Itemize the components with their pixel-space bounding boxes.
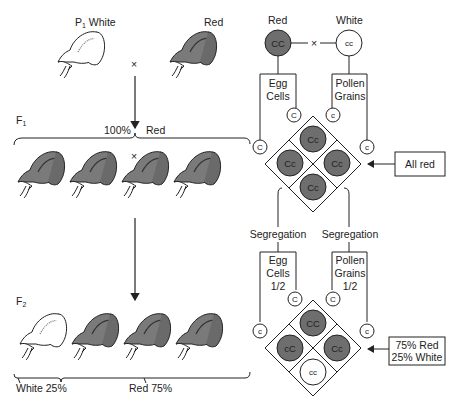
svg-text:Grains: Grains [335,267,366,279]
f1-flower-1 [18,152,65,198]
f1-flower-2 [70,152,117,198]
right-panel: Red White CC cc × Egg Cells Pollen Grain… [250,14,445,396]
f1-flower-4 [174,152,221,198]
f2-brace [14,372,250,382]
svg-text:25% White: 25% White [392,351,443,363]
svg-text:cC: cC [284,343,296,354]
segregation-left: Segregation [250,228,307,240]
svg-text:C: C [330,295,336,304]
f1-percent: 100% [104,124,131,136]
f1-punnett-square: Cc Cc Cc Cc [265,116,361,212]
f2-label: F2 [16,295,26,308]
svg-text:c: c [365,143,369,152]
svg-text:cc: cc [309,368,317,377]
p1-white-flower [58,32,105,78]
pollen-fraction: 1/2 [343,280,358,292]
svg-text:Pollen: Pollen [335,254,364,266]
svg-text:Cc: Cc [331,343,343,354]
f1-brace [14,133,250,145]
svg-text:Egg: Egg [269,77,288,89]
svg-text:C: C [257,143,263,152]
left-panel: P1 White Red × F1 100% Red × F2 White 25… [14,16,250,394]
egg-fraction: 1/2 [271,280,286,292]
cross-symbol: × [131,58,137,70]
svg-text:Cells: Cells [266,90,289,102]
f2-red-label: Red 75% [129,382,172,394]
svg-text:c: c [258,327,262,336]
svg-text:c: c [331,111,335,120]
p1-red-label: Red [204,16,223,28]
f1-flower-3 [122,152,169,198]
svg-text:Cells: Cells [266,267,289,279]
svg-text:CC: CC [306,318,320,329]
parent-red-label: Red [268,14,287,26]
parent-white-genotype: cc [345,39,353,48]
f2-flower-red-3 [176,314,223,360]
f1-cross-symbol: × [131,150,137,162]
svg-text:Cc: Cc [284,158,296,169]
svg-text:c: c [365,327,369,336]
f1-label: F1 [16,114,26,127]
p1-label: P1 White [75,16,116,29]
svg-text:C: C [291,111,297,120]
p1-red-flower [170,32,217,78]
svg-text:Cc: Cc [331,158,343,169]
svg-text:Cc: Cc [307,134,319,145]
svg-text:Grains: Grains [335,90,366,102]
parent-red-genotype: CC [271,38,285,49]
svg-text:Egg: Egg [269,254,288,266]
f2-flower-white [20,314,67,360]
svg-text:Cc: Cc [307,182,319,193]
svg-text:75% Red: 75% Red [395,339,438,351]
f2-white-label: White 25% [16,382,67,394]
parent-cross-symbol: × [311,37,317,49]
parent-white-label: White [336,14,363,26]
svg-text:C: C [292,295,298,304]
f1-red: Red [146,124,165,136]
f2-flower-red-1 [72,314,119,360]
f2-flower-red-2 [124,314,171,360]
svg-text:Pollen: Pollen [335,77,364,89]
svg-text:All red: All red [405,158,435,170]
segregation-right: Segregation [322,228,379,240]
f2-punnett-square: CC cC Cc cc [265,300,361,396]
